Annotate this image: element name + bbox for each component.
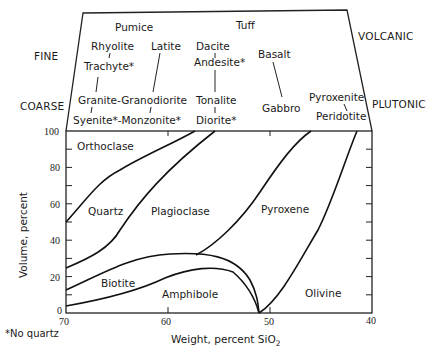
y-tick-80: 80 bbox=[50, 162, 60, 173]
rock-pumice: Pumice bbox=[115, 21, 153, 33]
y-axis-label: Volume, percent bbox=[17, 192, 29, 278]
y-tick-20: 20 bbox=[50, 272, 60, 283]
region-orthoclase: Orthoclase bbox=[77, 140, 134, 152]
connector-trachyte-granite bbox=[96, 77, 98, 92]
region-pyroxene: Pyroxene bbox=[261, 203, 309, 215]
region-biotite: Biotite bbox=[101, 277, 135, 289]
label-fine: FINE bbox=[34, 50, 58, 62]
rock-dacite: Dacite bbox=[196, 40, 230, 52]
label-coarse: COARSE bbox=[20, 100, 64, 112]
x-axis-label-subscript: 2 bbox=[276, 339, 281, 348]
rock-diorite: Diorite* bbox=[196, 114, 237, 126]
rock-trachyte: Trachyte* bbox=[83, 60, 134, 72]
connector-granite-syenite bbox=[91, 107, 92, 113]
region-amphibole: Amphibole bbox=[162, 288, 218, 300]
x-tick-40: 40 bbox=[366, 315, 376, 326]
rock-name-panel: FINE COARSE VOLCANIC PLUTONIC Pumice Tuf… bbox=[20, 10, 426, 131]
rock-basalt: Basalt bbox=[258, 48, 291, 60]
connector-granodiorite-monzonite bbox=[150, 107, 151, 113]
region-plagioclase: Plagioclase bbox=[151, 205, 210, 217]
rock-tonalite: Tonalite bbox=[195, 94, 237, 106]
x-tick-60: 60 bbox=[161, 316, 171, 327]
connector-latite-granodiorite bbox=[153, 53, 160, 92]
x-axis-label: Weight, percent SiO2 bbox=[171, 333, 281, 348]
curve-plagioclase-biotite bbox=[66, 253, 259, 313]
connector-basalt-gabbro bbox=[273, 62, 282, 97]
curve-plagioclase-pyroxene bbox=[196, 131, 311, 255]
rock-gabbro: Gabbro bbox=[262, 102, 300, 114]
rock-syenite-monzonite: Syenite*-Monzonite* bbox=[73, 114, 181, 126]
rock-andesite: Andesite* bbox=[194, 56, 245, 68]
igneous-rock-classification-diagram: FINE COARSE VOLCANIC PLUTONIC Pumice Tuf… bbox=[0, 0, 437, 358]
rock-pyroxenite: Pyroxenite bbox=[309, 91, 364, 103]
region-olivine: Olivine bbox=[305, 287, 341, 299]
mineral-composition-plot: 100 80 60 40 20 0 70 60 50 40 Orthoclase… bbox=[44, 126, 376, 327]
rock-tuff: Tuff bbox=[235, 19, 255, 31]
footnote-no-quartz: *No quartz bbox=[5, 328, 59, 339]
rock-latite: Latite bbox=[151, 40, 181, 52]
x-tick-50: 50 bbox=[264, 316, 274, 327]
rock-granite-granodiorite: Granite-Granodiorite bbox=[78, 94, 187, 106]
x-tick-70: 70 bbox=[59, 316, 69, 327]
y-tick-100: 100 bbox=[44, 126, 59, 137]
rock-peridotite: Peridotite bbox=[316, 110, 366, 122]
y-tick-60: 60 bbox=[50, 199, 60, 210]
y-tick-40: 40 bbox=[50, 235, 60, 246]
rock-rhyolite: Rhyolite bbox=[91, 40, 134, 52]
region-quartz: Quartz bbox=[88, 205, 124, 217]
connector-rhyolite-trachyte bbox=[109, 53, 110, 58]
label-plutonic: PLUTONIC bbox=[372, 98, 426, 110]
y-tick-0: 0 bbox=[57, 305, 62, 316]
x-axis-label-main: Weight, percent SiO bbox=[171, 333, 276, 345]
curve-pyroxene-olivine bbox=[259, 131, 357, 313]
label-volcanic: VOLCANIC bbox=[358, 30, 414, 42]
